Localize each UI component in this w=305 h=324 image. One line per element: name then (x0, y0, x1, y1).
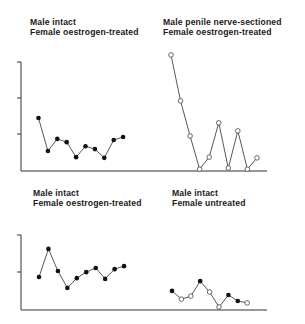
filled-point-marker (37, 275, 42, 280)
filled-point-marker (36, 116, 41, 121)
open-point-marker (216, 121, 221, 126)
filled-point-marker (112, 267, 117, 272)
open-point-marker (207, 155, 212, 160)
open-point-marker (179, 297, 184, 302)
filled-point-marker (170, 289, 175, 294)
filled-point-marker (93, 147, 98, 152)
open-point-marker (197, 167, 202, 172)
filled-point-marker (198, 279, 203, 284)
open-point-marker (245, 301, 250, 306)
open-point-marker (255, 156, 260, 161)
open-point-marker (226, 166, 231, 171)
filled-point-marker (64, 140, 69, 145)
filled-point-marker (46, 149, 51, 154)
filled-point-marker (122, 264, 127, 269)
open-point-marker (236, 129, 241, 134)
data-series (36, 53, 259, 310)
open-point-marker (169, 53, 174, 58)
series-line (39, 118, 124, 158)
filled-point-marker (46, 247, 51, 252)
filled-point-marker (102, 156, 107, 161)
series-line (39, 249, 124, 288)
open-point-marker (188, 134, 193, 139)
open-point-marker (245, 167, 250, 172)
filled-point-marker (74, 155, 79, 160)
filled-point-marker (226, 293, 231, 298)
filled-point-marker (236, 299, 241, 304)
filled-point-marker (83, 144, 88, 149)
filled-point-marker (111, 138, 116, 143)
filled-point-marker (55, 137, 60, 142)
filled-point-marker (84, 270, 89, 275)
filled-point-marker (75, 276, 80, 281)
filled-point-marker (56, 269, 61, 274)
open-point-marker (207, 290, 212, 295)
open-point-marker (217, 305, 222, 310)
filled-point-marker (121, 135, 126, 140)
chart-canvas (0, 0, 305, 324)
open-point-marker (178, 99, 183, 104)
filled-point-marker (93, 266, 98, 271)
open-point-marker (189, 294, 194, 299)
filled-point-marker (65, 286, 70, 291)
axes (17, 62, 267, 310)
series-line (171, 55, 257, 169)
filled-point-marker (103, 277, 108, 282)
